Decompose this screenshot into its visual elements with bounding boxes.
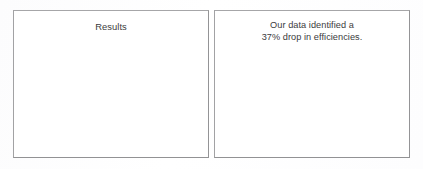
finding-line-2: 37% drop in efficiencies. xyxy=(221,32,403,44)
finding-panel-body: Our data identified a 37% drop in effici… xyxy=(221,20,403,43)
results-panel-title: Results xyxy=(20,21,202,33)
slide-canvas: Results Our data identified a 37% drop i… xyxy=(0,0,423,169)
finding-line-1: Our data identified a xyxy=(221,20,403,32)
results-panel[interactable]: Results xyxy=(13,10,209,158)
finding-panel[interactable]: Our data identified a 37% drop in effici… xyxy=(214,10,410,158)
